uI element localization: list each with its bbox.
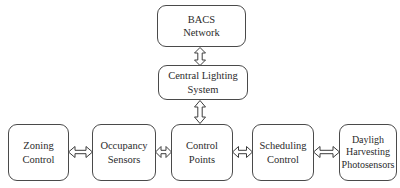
double-arrow-horizontal-icon-zoning-occupancy — [68, 144, 93, 160]
node-control-points[interactable]: Control Points — [171, 124, 233, 181]
node-control-points-label: Control Points — [185, 139, 219, 165]
node-scheduling-control[interactable]: Scheduling Control — [252, 124, 314, 181]
double-arrow-vertical-icon-central-control-points — [193, 100, 207, 124]
node-bacs-network[interactable]: BACS Network — [157, 5, 246, 47]
node-central-lighting-system-label: Central Lighting System — [167, 69, 239, 95]
node-occupancy-sensors-label: Occupancy Sensors — [99, 139, 148, 165]
node-daylight-harvesting-photosensors-label: Dayligh Harvesting Photosensors — [341, 134, 396, 172]
lighting-control-diagram: BACS Network Central Lighting System Zon… — [0, 0, 400, 188]
node-scheduling-control-label: Scheduling Control — [258, 139, 307, 165]
node-zoning-control[interactable]: Zoning Control — [8, 124, 69, 181]
double-arrow-horizontal-icon-occupancy-control-points — [155, 144, 172, 160]
node-daylight-harvesting-photosensors[interactable]: Dayligh Harvesting Photosensors — [339, 124, 397, 181]
node-occupancy-sensors[interactable]: Occupancy Sensors — [92, 124, 156, 181]
double-arrow-horizontal-icon-control-points-scheduling — [232, 144, 253, 160]
node-bacs-network-label: BACS Network — [182, 13, 221, 39]
double-arrow-vertical-icon-bacs-central — [193, 47, 207, 66]
node-central-lighting-system[interactable]: Central Lighting System — [158, 65, 248, 100]
double-arrow-horizontal-icon-scheduling-daylight — [313, 144, 340, 160]
node-zoning-control-label: Zoning Control — [21, 139, 55, 165]
